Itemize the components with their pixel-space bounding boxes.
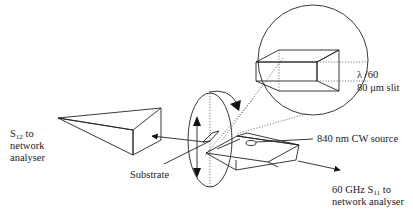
substrate-plate: [203, 131, 219, 142]
arrow-up-icon: [193, 116, 201, 126]
source-label: 840 nm CW source: [317, 133, 399, 144]
setup-diagram: λ /60 80 μm slit Substrate: [0, 0, 413, 214]
horn-antenna: [58, 108, 161, 155]
magnified-inset: λ /60 80 μm slit: [256, 5, 399, 115]
substrate-leader: [164, 141, 210, 164]
s12-label-line3: analyser: [10, 152, 45, 163]
s11-arrow: [298, 161, 340, 170]
waveguide-probe: [206, 133, 299, 170]
inset-label-slit: 80 μm slit: [357, 82, 399, 93]
rotation-arrow: [209, 91, 236, 102]
inset-label-lambda: λ /60: [357, 69, 378, 80]
s11-label-line2: network analyser: [332, 196, 405, 207]
s12-label-line2: network: [10, 140, 45, 151]
source-aperture: [246, 141, 256, 146]
substrate-label: Substrate: [130, 169, 169, 180]
slit-box-icon: [256, 50, 368, 91]
rotation-ellipse: [188, 91, 241, 187]
